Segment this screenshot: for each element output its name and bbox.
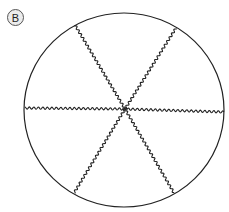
wavy-spoke-1 — [125, 29, 177, 109]
wavy-spokes — [25, 26, 224, 194]
wavy-spoke-4 — [74, 109, 125, 193]
wavy-spoke-0 — [74, 26, 125, 109]
circle-divided-diagram — [0, 0, 229, 212]
wavy-spoke-5 — [125, 109, 175, 193]
wavy-spoke-2 — [25, 107, 125, 110]
wavy-spoke-3 — [125, 108, 224, 113]
